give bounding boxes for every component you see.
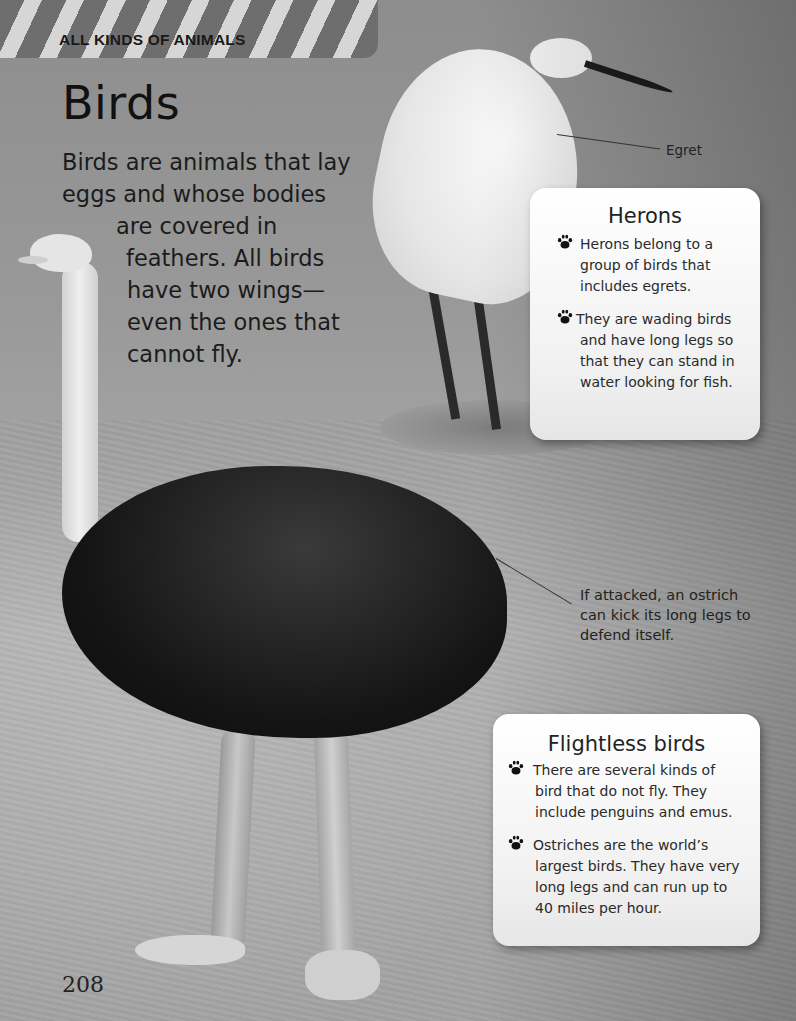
herons-bullet: Herons belong to a group of birds that i… — [556, 234, 760, 297]
section-label: ALL KINDS OF ANIMALS — [59, 31, 246, 49]
bullet-line: They are wading birds — [576, 309, 760, 330]
bullet-line: water looking for fish. — [576, 372, 760, 393]
intro-line: are covered in — [62, 210, 351, 242]
page-number: 208 — [62, 972, 104, 997]
herons-bullet: They are wading birds and have long legs… — [556, 309, 760, 393]
herons-box-title: Herons — [530, 188, 760, 228]
bullet-line: Ostriches are the world’s — [533, 835, 760, 856]
page-title: Birds — [62, 76, 180, 130]
bullet-line: and have long legs so — [576, 330, 760, 351]
paw-print-icon — [507, 760, 525, 776]
bullet-line: group of birds that — [580, 255, 760, 276]
paw-print-icon — [507, 835, 525, 851]
section-header-band: ALL KINDS OF ANIMALS — [0, 0, 378, 58]
intro-line: even the ones that — [62, 306, 351, 338]
ostrich-foot — [305, 950, 380, 1000]
bullet-line: There are several kinds of — [533, 760, 760, 781]
ostrich-beak — [18, 256, 48, 264]
bullet-line: bird that do not fly. They — [533, 781, 760, 802]
intro-paragraph: Birds are animals that lay eggs and whos… — [62, 146, 351, 370]
paw-print-icon — [556, 234, 574, 250]
ostrich-caption-line: defend itself. — [580, 625, 751, 645]
egret-head — [530, 38, 592, 78]
bullet-line: include penguins and emus. — [533, 802, 760, 823]
intro-line: Birds are animals that lay — [62, 146, 351, 178]
ostrich-caption-line: If attacked, an ostrich — [580, 585, 751, 605]
bullet-line: 40 miles per hour. — [533, 898, 760, 919]
egret-caption: Egret — [666, 140, 702, 160]
ostrich-caption-line: can kick its long legs to — [580, 605, 751, 625]
ostrich-caption: If attacked, an ostrich can kick its lon… — [580, 585, 751, 645]
flightless-bullet: There are several kinds of bird that do … — [507, 760, 760, 823]
flightless-box-title: Flightless birds — [493, 714, 760, 756]
herons-info-box: Herons Herons belong to a group of birds… — [530, 188, 760, 440]
intro-line: have two wings— — [62, 274, 351, 306]
intro-line: feathers. All birds — [62, 242, 351, 274]
paw-print-icon — [556, 309, 574, 325]
bullet-line: largest birds. They have very — [533, 856, 760, 877]
bullet-line: Herons belong to a — [580, 234, 760, 255]
ostrich-foot — [135, 935, 245, 965]
bullet-line: that they can stand in — [576, 351, 760, 372]
intro-line: cannot fly. — [62, 338, 351, 370]
bullet-line: long legs and can run up to — [533, 877, 760, 898]
flightless-bullet: Ostriches are the world’s largest birds.… — [507, 835, 760, 919]
flightless-birds-info-box: Flightless birds There are several kinds… — [493, 714, 760, 946]
intro-line: eggs and whose bodies — [62, 178, 351, 210]
bullet-line: includes egrets. — [580, 276, 760, 297]
